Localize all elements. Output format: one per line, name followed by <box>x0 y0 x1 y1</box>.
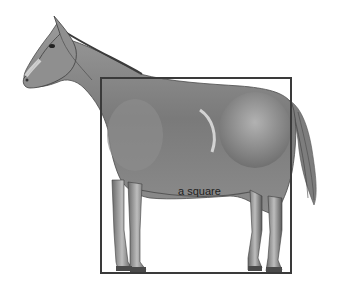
horse-diagram: a square <box>0 0 345 300</box>
horse-eye <box>49 44 55 48</box>
square-overlay <box>100 77 292 274</box>
square-label: a square <box>178 185 221 197</box>
